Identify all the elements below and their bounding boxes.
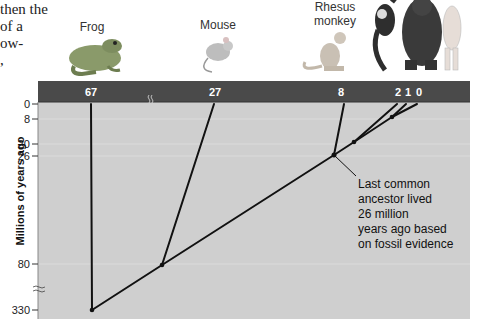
annotation-text: Last common ancestor lived 26 million ye… <box>358 177 453 252</box>
y-axis-label: Millions of years ago <box>14 131 26 251</box>
header-value-rhesus: 8 <box>338 86 344 98</box>
node-apes <box>352 140 357 145</box>
header-value-frog: 67 <box>85 86 97 98</box>
gibbon-icon <box>375 0 400 70</box>
phylogeny-figure: 67 27 8 2 1 0 0 8 20 26 80 330 <box>0 0 478 331</box>
node-root <box>90 308 95 313</box>
gorilla-icon <box>402 0 442 70</box>
human-icon <box>443 6 461 70</box>
frog-icon <box>69 39 122 74</box>
header-value-human: 0 <box>416 86 422 98</box>
header-value-mouse: 27 <box>209 86 221 98</box>
header-value-gibbon: 2 <box>395 86 401 98</box>
y-tick-label: 330 <box>12 304 30 316</box>
branch-frog <box>91 104 92 310</box>
rhesus-monkey-icon <box>304 32 346 71</box>
y-ticks <box>32 104 38 310</box>
y-tick-label: 80 <box>18 258 30 270</box>
node-great-apes <box>390 115 395 120</box>
y-tick-label: 0 <box>24 98 30 110</box>
mouse-icon <box>204 37 233 72</box>
y-tick-label: 8 <box>24 113 30 125</box>
node-mammals <box>160 263 165 268</box>
header-value-gorilla: 1 <box>405 86 411 98</box>
